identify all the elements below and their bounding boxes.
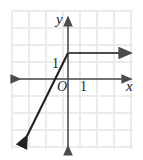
x-tick-label-one: 1 [80, 80, 87, 94]
origin-label: O [57, 80, 67, 94]
y-tick-label-one: 1 [52, 57, 59, 71]
x-axis-label: x [126, 79, 133, 94]
graph-figure: y x O 1 1 [0, 0, 143, 160]
coordinate-plane-svg [0, 0, 143, 160]
y-axis-label: y [56, 12, 63, 27]
function-segment-sloped [27, 53, 68, 136]
